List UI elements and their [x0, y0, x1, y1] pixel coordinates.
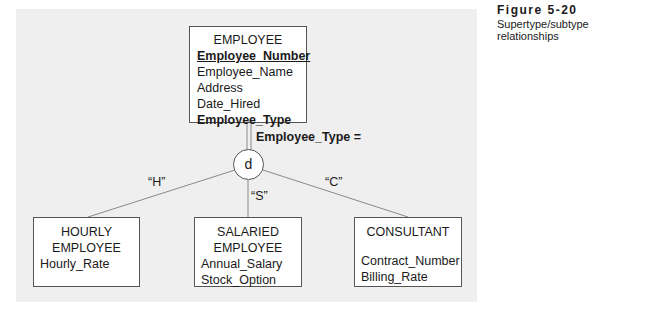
entity-name: CONSULTANT	[355, 224, 461, 240]
entity-name: EMPLOYEE	[34, 240, 139, 256]
attribute: Billing_Rate	[355, 269, 461, 285]
entity-name: HOURLY	[34, 224, 139, 240]
disjoint-constraint-circle: d	[233, 149, 264, 180]
attribute: Contract_Number	[355, 253, 461, 269]
entity-name: SALARIED	[195, 224, 301, 240]
entity-name: EMPLOYEE	[195, 240, 301, 256]
hourly-employee-entity: HOURLY EMPLOYEE Hourly_Rate	[33, 217, 140, 287]
attribute: Stock_Option	[195, 272, 301, 288]
figure-description: Supertype/subtype relationships	[497, 18, 652, 42]
attribute: Hourly_Rate	[34, 256, 139, 272]
discriminator-value-hourly: “H”	[148, 175, 165, 189]
attribute: Address	[190, 80, 306, 96]
figure-caption: Figure 5-20 Supertype/subtype relationsh…	[497, 3, 652, 42]
identifier-attribute: Employee_Number	[190, 48, 306, 64]
discriminator-attribute: Employee_Type	[190, 112, 306, 128]
entity-name: EMPLOYEE	[190, 32, 306, 48]
consultant-entity: CONSULTANT Contract_Number Billing_Rate	[354, 217, 462, 287]
employee-entity: EMPLOYEE Employee_Number Employee_Name A…	[189, 26, 307, 123]
discriminator-value-salaried: “S”	[251, 189, 268, 203]
discriminator-value-consultant: “C”	[325, 175, 342, 189]
attribute: Date_Hired	[190, 96, 306, 112]
attribute: Employee_Name	[190, 64, 306, 80]
attribute: Annual_Salary	[195, 256, 301, 272]
subtype-discriminator-label: Employee_Type =	[256, 130, 361, 144]
spacer	[355, 240, 461, 253]
figure-number: Figure 5-20	[497, 3, 652, 17]
salaried-employee-entity: SALARIED EMPLOYEE Annual_Salary Stock_Op…	[194, 217, 302, 287]
